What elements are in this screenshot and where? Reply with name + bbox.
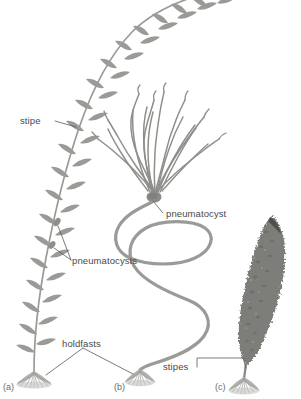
figure-illustration [0, 0, 301, 399]
panel-a-specimen [16, 0, 277, 389]
panel-b-pneumatocyst [147, 192, 162, 203]
leader-stipes [197, 358, 246, 368]
panel-b-stipe [116, 202, 212, 370]
label-pneumatocyst: pneumatocyst [166, 209, 226, 219]
seaweed-morphology-figure: stipe pneumatocysts pneumatocyst holdfas… [0, 0, 301, 399]
panel-b-specimen [92, 83, 226, 386]
panel-label-c: (c) [215, 383, 226, 392]
label-holdfasts: holdfasts [62, 339, 101, 349]
leader-holdfasts-2 [83, 348, 133, 374]
leader-pneumatocyst [153, 201, 163, 213]
panel-label-a: (a) [3, 383, 14, 392]
panel-c-holdfast [228, 377, 260, 394]
panel-b-fronds [98, 92, 219, 194]
label-stipe: stipe [20, 116, 41, 126]
panel-c-blade [239, 216, 285, 365]
label-pneumatocysts: pneumatocysts [72, 256, 137, 266]
panel-a-holdfast [16, 371, 52, 389]
panel-c-specimen [228, 216, 285, 394]
leader-holdfasts-1 [46, 348, 83, 375]
label-stipes: stipes [163, 362, 188, 372]
panel-a-blades [16, 0, 277, 353]
panel-label-b: (b) [114, 383, 125, 392]
